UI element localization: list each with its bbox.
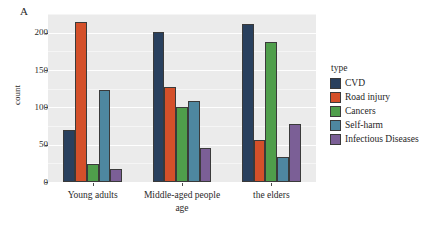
x-tick-mark — [271, 183, 272, 186]
bar — [254, 140, 266, 182]
bar — [75, 22, 87, 182]
bar — [153, 32, 165, 182]
legend-item[interactable]: CVD — [330, 76, 440, 90]
y-tick-label: 200 — [8, 28, 48, 37]
bar — [176, 107, 188, 182]
chart-figure: A count 050100150200 Young adultsMiddle-… — [0, 0, 442, 241]
y-tick-label: 0 — [8, 178, 48, 187]
x-tick-mark — [182, 183, 183, 186]
legend-title: type — [330, 62, 440, 74]
legend-item[interactable]: Road injury — [330, 90, 440, 104]
y-axis-ticks: 050100150200 — [0, 14, 48, 182]
bar — [99, 90, 111, 182]
y-tick-label: 50 — [8, 140, 48, 149]
legend-swatch — [330, 78, 341, 89]
bar — [265, 42, 277, 182]
legend-label: Cancers — [345, 105, 376, 117]
legend-item[interactable]: Infectious Diseases — [330, 132, 440, 146]
bar — [110, 169, 122, 182]
bars-layer — [48, 14, 316, 182]
bar — [200, 148, 212, 182]
legend-item[interactable]: Cancers — [330, 104, 440, 118]
bar — [63, 130, 75, 182]
legend-swatch — [330, 106, 341, 117]
bar — [289, 124, 301, 182]
bar — [277, 157, 289, 182]
bar — [87, 164, 99, 182]
legend-items: CVDRoad injuryCancersSelf-harmInfectious… — [330, 76, 440, 146]
legend-label: Infectious Diseases — [345, 133, 419, 145]
y-tick-label: 150 — [8, 66, 48, 75]
bar — [188, 101, 200, 182]
y-tick-label: 100 — [8, 103, 48, 112]
legend-label: CVD — [345, 77, 365, 89]
bar — [242, 24, 254, 182]
bar — [164, 87, 176, 182]
legend-label: Road injury — [345, 91, 390, 103]
x-tick-label: Young adults — [68, 190, 118, 201]
legend-item[interactable]: Self-harm — [330, 118, 440, 132]
legend-swatch — [330, 134, 341, 145]
plot-panel — [48, 14, 316, 182]
legend-swatch — [330, 92, 341, 103]
x-tick-label: Middle-aged people — [144, 190, 220, 201]
y-tick-mark — [45, 182, 48, 183]
x-tick-mark — [93, 183, 94, 186]
legend-label: Self-harm — [345, 119, 383, 131]
legend-swatch — [330, 120, 341, 131]
legend: type CVDRoad injuryCancersSelf-harmInfec… — [330, 62, 440, 146]
x-tick-label: the elders — [253, 190, 290, 201]
x-axis-title: age — [48, 203, 316, 214]
